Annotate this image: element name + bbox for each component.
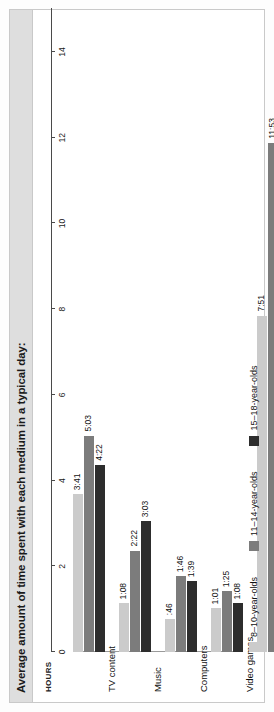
bar-row: 1:08	[119, 52, 129, 652]
page-title: Average amount of time spent with each m…	[15, 343, 27, 694]
bar-value-label: 11:53	[267, 118, 274, 139]
bar-row: 1:08	[233, 52, 243, 652]
bar-row: 1:25	[222, 52, 232, 652]
axis-tick-label: 2	[57, 564, 67, 569]
bar[interactable]	[268, 143, 274, 652]
bar-value-label: 3:03	[140, 501, 150, 518]
bar-group: TV content3:415:034:22	[73, 20, 119, 692]
legend-item[interactable]: 8–10-year-olds	[249, 577, 259, 652]
bar-value-label: 1:08	[118, 583, 128, 600]
bar-row: 1:46	[176, 52, 186, 652]
bar-row: 5:03	[84, 52, 94, 652]
bar[interactable]	[211, 608, 221, 652]
bar-group: Total media exposure7:5111:5311:23	[257, 20, 274, 692]
bar[interactable]	[95, 465, 105, 652]
legend-item[interactable]: 15–18-year-olds	[249, 366, 259, 446]
bar-value-label: 7:51	[256, 295, 266, 312]
bar-row: 11:53	[268, 52, 274, 652]
legend-swatch-icon	[249, 436, 259, 446]
bar-row: 3:41	[73, 52, 83, 652]
axis-tick-label: 10	[57, 219, 67, 228]
chart-figure: Average amount of time spent with each m…	[9, 9, 265, 703]
legend-swatch-icon	[249, 642, 259, 652]
bar-row: :46	[165, 52, 175, 652]
bar[interactable]	[130, 551, 140, 652]
axis-tick	[51, 651, 55, 652]
chart-page: Average amount of time spent with each m…	[0, 0, 274, 712]
bar[interactable]	[165, 619, 175, 652]
axis-tick	[51, 308, 55, 309]
axis-title: HOURS	[44, 662, 53, 692]
bar-value-label: 1:25	[221, 571, 231, 588]
chart-title-band: Average amount of time spent with each m…	[10, 10, 33, 702]
bar-value-label: 1:39	[186, 561, 196, 578]
legend-label: 8–10-year-olds	[249, 577, 259, 637]
bar[interactable]	[222, 591, 232, 652]
bar[interactable]	[187, 581, 197, 652]
axis-line	[51, 8, 52, 652]
bar[interactable]	[84, 436, 94, 652]
bar-value-label: 3:41	[72, 474, 82, 491]
bar-row: 3:03	[141, 52, 151, 652]
axis-tick	[51, 222, 55, 223]
bar-row: 1:01	[211, 52, 221, 652]
bar-value-label: 5:03	[83, 415, 93, 432]
plot-area: HOURS 02468101214 TV content3:415:034:22…	[33, 10, 264, 702]
bar[interactable]	[176, 576, 186, 652]
bar-value-label: 1:01	[210, 588, 220, 605]
axis-tick	[51, 394, 55, 395]
axis-tick	[51, 565, 55, 566]
bar-value-label: 2:22	[129, 530, 139, 547]
axis-tick-label: 4	[57, 478, 67, 483]
bar-row: 2:22	[130, 52, 140, 652]
bar-value-label: 1:08	[232, 583, 242, 600]
bar[interactable]	[233, 603, 243, 652]
bar-row: 1:39	[187, 52, 197, 652]
category-label: TV content	[106, 646, 117, 692]
bar-groups: TV content3:415:034:22Music1:082:223:03C…	[73, 20, 234, 692]
bar[interactable]	[73, 494, 83, 652]
bar-value-label: 1:46	[175, 556, 185, 573]
axis-tick	[51, 137, 55, 138]
axis-tick-label: 8	[57, 307, 67, 312]
legend-label: 15–18-year-olds	[249, 366, 259, 431]
axis-tick	[51, 480, 55, 481]
bar-group: Music1:082:223:03	[119, 20, 165, 692]
legend-swatch-icon	[249, 541, 259, 551]
bar-value-label: 4:22	[94, 444, 104, 461]
rotated-figure-wrapper: Average amount of time spent with each m…	[0, 0, 274, 712]
bar-group: Computers:461:461:39	[165, 20, 211, 692]
category-label: Music	[152, 667, 163, 692]
category-label: Computers	[198, 646, 209, 692]
chart-legend: 8–10-year-olds11–14-year-olds15–18-year-…	[249, 366, 259, 652]
legend-item[interactable]: 11–14-year-olds	[249, 472, 259, 551]
axis-tick-label: 12	[57, 133, 67, 142]
axis-tick-label: 6	[57, 392, 67, 397]
axis-tick	[51, 51, 55, 52]
bar[interactable]	[141, 521, 151, 652]
axis-tick-label: 0	[57, 650, 67, 655]
legend-label: 11–14-year-olds	[249, 472, 259, 536]
bar-value-label: :46	[164, 603, 174, 615]
bar[interactable]	[119, 603, 129, 652]
value-axis: HOURS 02468101214	[43, 0, 69, 692]
bar-row: 4:22	[95, 52, 105, 652]
axis-tick-label: 14	[57, 47, 67, 56]
